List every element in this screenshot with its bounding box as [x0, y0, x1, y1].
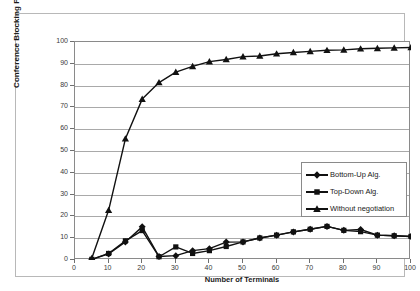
diamond-marker [223, 239, 230, 246]
diamond-marker [240, 238, 247, 245]
square-marker [207, 248, 212, 253]
x-tick-mark [175, 259, 176, 263]
legend-item-1[interactable]: Bottom-Up Alg. [302, 166, 406, 183]
triangle-marker [155, 79, 162, 85]
series-2 [89, 224, 411, 260]
y-tick-mark [70, 63, 74, 64]
x-tick-mark [208, 259, 209, 263]
y-tick-mark [70, 237, 74, 238]
square-marker [375, 233, 380, 238]
square-marker [314, 189, 319, 194]
y-tick-mark [70, 41, 74, 42]
square-marker [190, 251, 195, 256]
square-marker [274, 233, 279, 238]
triangle-marker [122, 135, 129, 141]
diamond-marker [122, 238, 129, 245]
x-tick-label: 70 [294, 264, 324, 271]
x-tick-mark [141, 259, 142, 263]
x-tick-label: 100 [395, 264, 420, 271]
triangle-marker [374, 45, 381, 51]
y-tick-label: 10 [28, 233, 68, 241]
triangle-marker [357, 45, 364, 51]
gridline [75, 64, 409, 65]
legend-item-3[interactable]: Without negotiation [302, 200, 406, 217]
gridline [75, 86, 409, 87]
triangle-marker [323, 47, 330, 53]
diamond-marker [88, 256, 95, 260]
x-tick-mark [242, 259, 243, 263]
diamond-marker [307, 226, 314, 233]
diamond-marker [290, 228, 297, 235]
diamond-icon [306, 169, 328, 180]
x-tick-label: 0 [59, 264, 89, 271]
square-marker [173, 244, 178, 249]
gridline [75, 151, 409, 152]
gridline [75, 107, 409, 108]
diamond-marker [139, 223, 146, 230]
y-tick-label: 40 [28, 168, 68, 176]
y-tick-label: 100 [28, 37, 68, 45]
y-axis-label: Conference Blocking Probability [%] [12, 0, 21, 88]
legend-triangle-glyph [311, 203, 323, 215]
y-tick-label: 60 [28, 124, 68, 132]
diamond-marker [324, 223, 331, 230]
y-tick-mark [70, 128, 74, 129]
square-marker [156, 254, 161, 259]
diamond-marker [105, 250, 112, 257]
triangle-marker [391, 44, 398, 50]
y-tick-label: 0 [28, 255, 68, 263]
x-tick-mark [276, 259, 277, 263]
y-tick-mark [70, 85, 74, 86]
triangle-marker [313, 205, 321, 212]
diamond-marker [156, 253, 163, 260]
x-tick-label: 40 [193, 264, 223, 271]
x-tick-mark [376, 259, 377, 263]
triangle-marker [105, 207, 112, 213]
diamond-marker [340, 227, 347, 234]
triangle-marker [239, 53, 246, 59]
x-tick-mark [108, 259, 109, 263]
triangle-marker [256, 52, 263, 58]
x-tick-label: 90 [361, 264, 391, 271]
series-1 [88, 223, 411, 260]
legend-item-2[interactable]: Top-Down Alg. [302, 183, 406, 200]
x-tick-mark [74, 259, 75, 263]
diamond-marker [189, 247, 196, 254]
y-tick-mark [70, 194, 74, 195]
y-tick-mark [70, 215, 74, 216]
gridline [75, 129, 409, 130]
square-marker [224, 244, 229, 249]
triangle-marker [340, 46, 347, 52]
square-marker [341, 228, 346, 233]
triangle-marker [139, 96, 146, 102]
series-line [92, 226, 411, 259]
chart-figure: Conference Blocking Probability [%] 0102… [0, 0, 420, 291]
diamond-marker [357, 226, 364, 233]
diamond-marker [313, 171, 320, 178]
square-marker [89, 257, 94, 260]
square-marker [106, 251, 111, 256]
y-tick-label: 90 [28, 59, 68, 67]
x-tick-label: 30 [160, 264, 190, 271]
legend-label: Without negotiation [328, 204, 394, 213]
triangle-marker [223, 56, 230, 62]
y-tick-label: 30 [28, 190, 68, 198]
x-tick-mark [410, 259, 411, 263]
plot-area [74, 41, 410, 259]
y-tick-mark [70, 150, 74, 151]
y-tick-label: 20 [28, 211, 68, 219]
triangle-marker [407, 44, 411, 50]
triangle-marker [172, 68, 179, 74]
diamond-marker [172, 252, 179, 259]
y-tick-label: 70 [28, 102, 68, 110]
legend-diamond-glyph [311, 169, 323, 181]
square-marker [358, 229, 363, 234]
y-tick-label: 50 [28, 146, 68, 154]
x-tick-label: 20 [126, 264, 156, 271]
legend-label: Bottom-Up Alg. [328, 170, 380, 179]
x-tick-label: 50 [227, 264, 257, 271]
x-tick-mark [343, 259, 344, 263]
square-marker [308, 227, 313, 232]
square-marker [291, 229, 296, 234]
triangle-marker [290, 49, 297, 55]
